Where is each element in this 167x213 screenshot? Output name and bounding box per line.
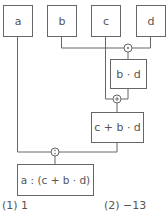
intermediate-label-cbd: c + b · d [94, 121, 141, 134]
input-label-a: a [15, 15, 22, 28]
divide-operator-icon [51, 148, 59, 156]
input-box-c: c [91, 5, 121, 37]
answer-2-value: −13 [123, 199, 146, 212]
input-label-b: b [59, 15, 66, 28]
input-box-a: a [3, 5, 33, 37]
input-box-b: b [47, 5, 77, 37]
answer-2: (2) −13 [104, 199, 146, 212]
answer-1: (1) 1 [2, 199, 28, 212]
intermediate-box-cbd: c + b · d [91, 112, 144, 143]
result-label: a : (c + b · d) [21, 174, 90, 186]
input-box-d: d [136, 5, 166, 37]
input-label-d: d [148, 15, 155, 28]
intermediate-box-bd: b · d [110, 59, 147, 89]
result-box: a : (c + b · d) [17, 164, 94, 196]
answer-2-label: (2) [104, 199, 120, 212]
answer-1-value: 1 [21, 199, 28, 212]
input-label-c: c [103, 15, 109, 28]
answer-1-label: (1) [2, 199, 18, 212]
intermediate-label-bd: b · d [116, 68, 140, 81]
